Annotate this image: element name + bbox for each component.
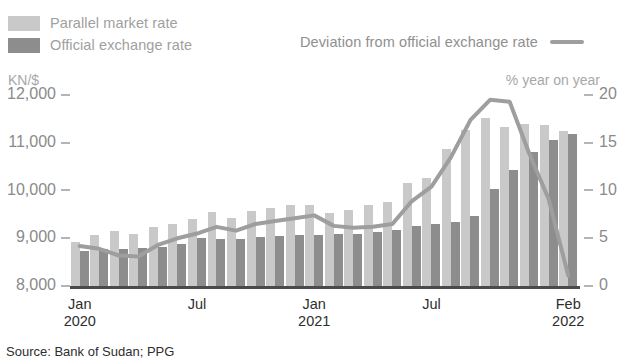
left-tick-mark (61, 189, 70, 191)
x-tick-year: 2022 (552, 313, 584, 330)
bar-parallel (325, 213, 334, 287)
right-tick: 5 (584, 228, 608, 246)
bar-pair (441, 96, 461, 287)
right-tick-label: 5 (599, 228, 608, 246)
x-tick-month: Feb (556, 296, 581, 312)
right-tick-mark (584, 285, 593, 287)
bar-official (529, 152, 538, 287)
legend-swatch-parallel (8, 16, 40, 31)
bar-official (568, 134, 577, 287)
bar-official (119, 249, 128, 287)
bar-official (412, 226, 421, 287)
right-tick: 0 (584, 276, 608, 294)
x-tick-month: Jul (188, 296, 207, 312)
bar-parallel (247, 211, 256, 287)
right-tick: 15 (584, 133, 617, 151)
axis-baseline (70, 286, 580, 289)
bar-pair (402, 96, 422, 287)
bar-parallel (188, 219, 197, 287)
left-tick-label: 10,000 (7, 181, 56, 199)
legend-label-official: Official exchange rate (50, 37, 192, 53)
bar-official (158, 247, 167, 287)
right-tick-mark (584, 142, 593, 144)
bar-parallel (540, 125, 549, 287)
left-tick-label: 12,000 (7, 85, 56, 103)
legend-item-official: Official exchange rate (8, 34, 192, 56)
bar-official (549, 140, 558, 287)
bar-official (490, 189, 499, 287)
x-tick: Feb2022 (552, 296, 584, 330)
bar-parallel (481, 118, 490, 287)
bar-official (275, 236, 284, 287)
left-tick: 11,000 (8, 133, 70, 151)
bar-group (70, 96, 578, 287)
bar-official (334, 234, 343, 287)
right-tick: 20 (584, 85, 617, 103)
bar-pair (148, 96, 168, 287)
bar-official (392, 230, 401, 287)
bar-parallel (364, 205, 373, 287)
bar-official (80, 251, 89, 287)
x-tick-year: 2020 (64, 313, 96, 330)
bar-parallel (168, 224, 177, 288)
x-tick: Jul (188, 296, 207, 313)
bar-official (216, 239, 225, 287)
bar-official (197, 238, 206, 287)
left-tick-label: 9,000 (16, 228, 56, 246)
bar-pair (90, 96, 110, 287)
bar-parallel (90, 235, 99, 287)
bar-parallel (227, 218, 236, 287)
left-tick-label: 11,000 (8, 133, 56, 151)
bar-parallel (344, 210, 353, 287)
bar-parallel (71, 242, 80, 287)
bar-parallel (266, 208, 275, 287)
bar-official (256, 237, 265, 287)
bar-official (509, 170, 518, 287)
bar-pair (265, 96, 285, 287)
x-tick-month: Jan (303, 296, 326, 312)
bar-official (373, 232, 382, 287)
bar-parallel (422, 178, 431, 287)
plot-area (70, 96, 578, 287)
x-tick-month: Jul (422, 296, 441, 312)
left-tick-mark (61, 285, 70, 287)
bar-official (99, 249, 108, 287)
bar-pair (129, 96, 149, 287)
bar-parallel (208, 212, 217, 287)
bar-pair (558, 96, 578, 287)
right-tick-mark (584, 94, 593, 96)
bar-official (236, 239, 245, 287)
bar-pair (187, 96, 207, 287)
bar-parallel (383, 202, 392, 287)
legend-item-deviation: Deviation from official exchange rate (300, 34, 584, 50)
legend-swatch-deviation (550, 40, 584, 44)
bar-pair (363, 96, 383, 287)
bar-parallel (110, 231, 119, 287)
left-tick: 8,000 (16, 276, 70, 294)
x-tick: Jul (422, 296, 441, 313)
bar-pair (519, 96, 539, 287)
bar-parallel (520, 124, 529, 287)
bar-pair (207, 96, 227, 287)
bar-pair (324, 96, 344, 287)
left-tick: 9,000 (16, 228, 70, 246)
right-tick-label: 0 (599, 276, 608, 294)
bar-pair (539, 96, 559, 287)
left-tick-mark (61, 142, 70, 144)
bar-parallel (286, 205, 295, 287)
right-tick-mark (584, 237, 593, 239)
bar-parallel (500, 127, 509, 287)
x-tick-month: Jan (68, 296, 91, 312)
bar-parallel (129, 234, 138, 287)
bar-parallel (305, 205, 314, 287)
x-tick: Jan2020 (64, 296, 96, 330)
right-tick: 10 (584, 181, 617, 199)
bar-official (353, 234, 362, 287)
right-tick-label: 10 (599, 181, 617, 199)
bar-parallel (442, 149, 451, 287)
left-tick: 12,000 (7, 85, 70, 103)
bar-pair (500, 96, 520, 287)
left-tick-label: 8,000 (16, 276, 56, 294)
bar-pair (246, 96, 266, 287)
x-tick: Jan2021 (298, 296, 330, 330)
